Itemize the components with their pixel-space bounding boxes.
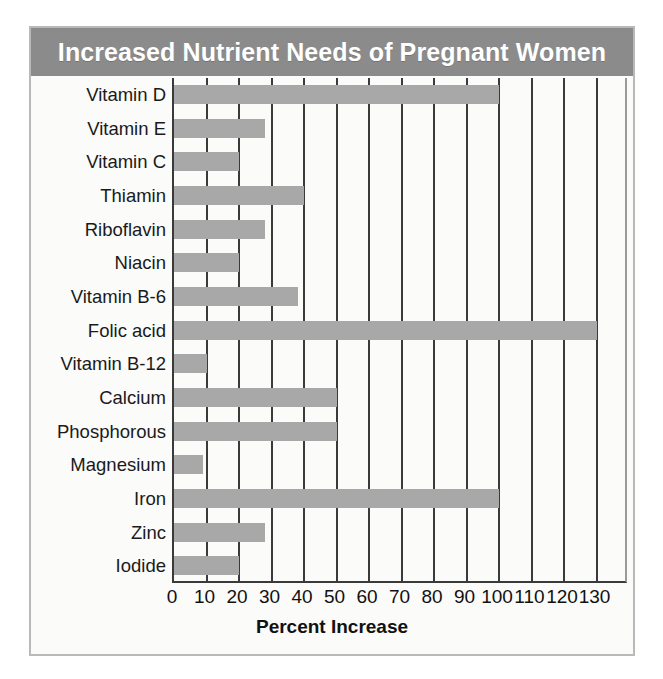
category-label: Thiamin [31,179,166,213]
bar [174,523,265,542]
x-tick-label: 40 [291,586,312,608]
bar-row [174,78,625,112]
bar-row [174,381,625,415]
x-tick-label: 100 [481,586,513,608]
bar-row [174,347,625,381]
category-label: Niacin [31,246,166,280]
x-tick-label: 0 [167,586,178,608]
x-tick-label: 110 [514,586,544,608]
x-tick-label: 30 [259,586,280,608]
category-label: Vitamin D [31,78,166,112]
title-banner: Increased Nutrient Needs of Pregnant Wom… [31,28,633,76]
bar-row [174,448,625,482]
bar [174,556,239,575]
bar-row [174,482,625,516]
category-axis-labels: Vitamin DVitamin EVitamin CThiaminRibofl… [31,78,166,583]
category-label: Iron [31,482,166,516]
bar-row [174,246,625,280]
bar-row [174,549,625,583]
bar [174,455,203,474]
x-tick-label: 130 [579,586,611,608]
plot-area [172,78,627,583]
x-tick-label: 70 [389,586,410,608]
category-label: Phosphorous [31,415,166,449]
category-label: Calcium [31,381,166,415]
bar [174,152,239,171]
bar [174,253,239,272]
category-label: Magnesium [31,448,166,482]
bar [174,354,207,373]
bar-row [174,145,625,179]
x-tick-label: 10 [194,586,215,608]
x-tick-label: 50 [324,586,345,608]
x-tick-label: 60 [356,586,377,608]
category-label: Iodide [31,549,166,583]
x-tick-label: 90 [454,586,475,608]
category-label: Vitamin B-12 [31,347,166,381]
x-tick-label: 120 [546,586,578,608]
bar-row [174,415,625,449]
bar-row [174,213,625,247]
x-axis-tick-labels: 0102030405060708090100110120130 [172,586,627,614]
bar-rows [174,78,625,581]
bar-row [174,280,625,314]
bar-row [174,112,625,146]
bar [174,489,499,508]
bar [174,321,597,340]
chart-title: Increased Nutrient Needs of Pregnant Wom… [58,38,606,67]
bar [174,119,265,138]
category-label: Riboflavin [31,213,166,247]
bar-row [174,179,625,213]
bar [174,85,499,104]
bar [174,287,298,306]
category-label: Zinc [31,516,166,550]
x-tick-label: 20 [226,586,247,608]
bar-row [174,516,625,550]
bar-row [174,314,625,348]
chart-page: Increased Nutrient Needs of Pregnant Wom… [0,0,663,679]
bar [174,220,265,239]
bar [174,422,337,441]
chart-area: Vitamin DVitamin EVitamin CThiaminRibofl… [31,76,633,654]
category-label: Folic acid [31,314,166,348]
x-tick-label: 80 [421,586,442,608]
category-label: Vitamin C [31,145,166,179]
bar [174,186,304,205]
bar [174,388,337,407]
category-label: Vitamin E [31,112,166,146]
x-axis-title: Percent Increase [31,616,633,638]
category-label: Vitamin B-6 [31,280,166,314]
